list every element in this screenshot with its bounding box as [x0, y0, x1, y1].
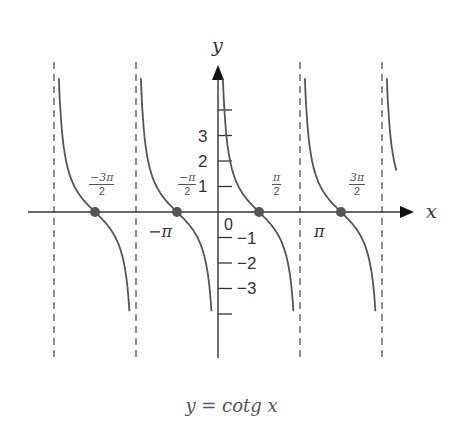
fraction-denominator: 2 — [274, 185, 280, 197]
zero-label-pi-over-2: π 2 — [272, 172, 281, 197]
y-tick-label-3: 3 — [198, 128, 207, 145]
y-tick-label-neg1: −1 — [237, 230, 256, 247]
y-tick-label-neg2: −2 — [237, 255, 256, 272]
fraction-numerator: −3π — [89, 172, 114, 185]
y-tick-label-neg3: −3 — [237, 280, 256, 297]
fraction-denominator: 2 — [99, 185, 105, 197]
cotangent-plot — [0, 0, 463, 423]
fraction-numerator: π — [272, 172, 281, 185]
x-tick-label-minus-pi: −π — [148, 224, 172, 240]
cotangent-branch — [387, 78, 397, 170]
chart-caption: y = cotg x — [0, 395, 463, 416]
fraction-denominator: 2 — [184, 185, 190, 197]
zero-point-dot — [90, 207, 100, 217]
zero-label-3pi-over-2: 3π 2 — [349, 172, 365, 197]
fraction-numerator: 3π — [349, 172, 365, 185]
fraction-denominator: 2 — [354, 185, 360, 197]
zero-label-minus-pi-over-2: −π 2 — [178, 172, 196, 197]
y-tick-label-2: 2 — [198, 153, 207, 170]
y-axis-arrow-icon — [212, 65, 224, 80]
fraction-numerator: −π — [178, 172, 196, 185]
zero-point-dot — [172, 207, 182, 217]
zero-point-dot — [254, 207, 264, 217]
zero-label-minus-3pi-over-2: −3π 2 — [89, 172, 114, 197]
x-axis-label: x — [426, 202, 437, 221]
x-tick-label-pi: π — [314, 224, 325, 240]
x-axis-arrow-icon — [400, 206, 414, 218]
origin-label: 0 — [224, 217, 233, 233]
axes — [28, 65, 414, 358]
y-axis-label: y — [212, 36, 223, 55]
y-tick-label-1: 1 — [198, 178, 207, 195]
zero-point-dot — [336, 207, 346, 217]
cotangent-branch — [223, 78, 294, 311]
